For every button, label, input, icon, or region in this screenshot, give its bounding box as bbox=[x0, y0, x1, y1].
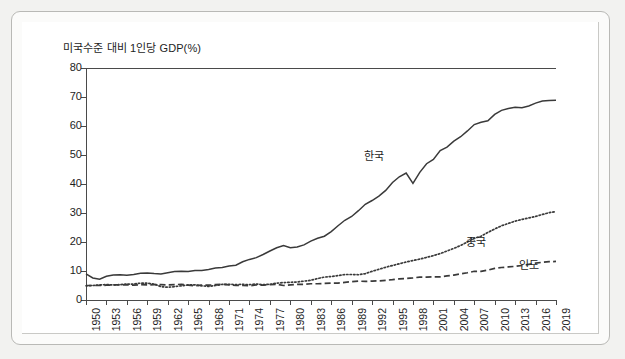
x-tick-label: 1965 bbox=[192, 308, 204, 331]
x-tick-label: 1977 bbox=[274, 308, 286, 331]
x-tick-label: 1995 bbox=[397, 308, 409, 331]
x-tick-mark bbox=[495, 300, 496, 305]
x-tick-label: 1959 bbox=[151, 308, 163, 331]
x-tick-mark bbox=[127, 300, 128, 305]
scanned-page: 미국수준 대비 1인당 GDP(%) 01020304050607080 195… bbox=[0, 0, 625, 359]
x-tick-mark bbox=[106, 300, 107, 305]
x-tick-mark bbox=[393, 300, 394, 305]
x-tick-mark bbox=[249, 300, 250, 305]
x-tick-label: 1971 bbox=[233, 308, 245, 331]
x-tick-label: 2010 bbox=[499, 308, 511, 331]
x-tick-label: 1962 bbox=[172, 308, 184, 331]
x-tick-label: 1992 bbox=[376, 308, 388, 331]
y-tick-label: 0 bbox=[76, 293, 82, 305]
chart-title: 미국수준 대비 1인당 GDP(%) bbox=[63, 39, 201, 55]
x-tick-label: 1998 bbox=[417, 308, 429, 331]
x-tick-label: 1950 bbox=[90, 308, 102, 331]
x-tick-mark bbox=[147, 300, 148, 305]
x-tick-mark bbox=[209, 300, 210, 305]
x-tick-label: 2007 bbox=[478, 308, 490, 331]
x-tick-label: 2016 bbox=[540, 308, 552, 331]
series-label-korea: 한국 bbox=[364, 147, 384, 163]
y-tick-label: 40 bbox=[70, 177, 82, 189]
x-tick-label: 1968 bbox=[213, 308, 225, 331]
x-tick-mark bbox=[168, 300, 169, 305]
series-label-india: 인도 bbox=[519, 256, 539, 272]
x-tick-mark bbox=[311, 300, 312, 305]
x-tick-mark bbox=[86, 300, 87, 305]
x-tick-mark bbox=[352, 300, 353, 305]
x-tick-label: 1983 bbox=[315, 308, 327, 331]
x-tick-mark bbox=[515, 300, 516, 305]
series-lines bbox=[86, 68, 556, 300]
y-tick-label: 10 bbox=[70, 264, 82, 276]
x-tick-mark bbox=[331, 300, 332, 305]
series-line-korea bbox=[86, 100, 556, 279]
x-tick-mark bbox=[454, 300, 455, 305]
x-tick-mark bbox=[474, 300, 475, 305]
x-tick-label: 1980 bbox=[294, 308, 306, 331]
y-tick-label: 80 bbox=[70, 61, 82, 73]
x-tick-label: 2019 bbox=[560, 308, 572, 331]
x-tick-label: 1989 bbox=[356, 308, 368, 331]
x-tick-label: 2013 bbox=[519, 308, 531, 331]
y-tick-label: 60 bbox=[70, 119, 82, 131]
x-tick-label: 1956 bbox=[131, 308, 143, 331]
x-tick-mark bbox=[188, 300, 189, 305]
x-tick-mark bbox=[433, 300, 434, 305]
plot-area: 01020304050607080 1950195319561959196219… bbox=[86, 68, 556, 300]
x-tick-mark bbox=[229, 300, 230, 305]
x-tick-mark bbox=[556, 300, 557, 305]
line-chart: 미국수준 대비 1인당 GDP(%) 01020304050607080 195… bbox=[0, 0, 625, 359]
y-tick-label: 70 bbox=[70, 90, 82, 102]
series-label-china: 중국 bbox=[466, 233, 486, 249]
x-tick-label: 2001 bbox=[437, 308, 449, 331]
y-tick-label: 50 bbox=[70, 148, 82, 160]
x-axis-line bbox=[86, 300, 556, 301]
x-tick-mark bbox=[536, 300, 537, 305]
series-line-china bbox=[86, 212, 556, 288]
x-tick-mark bbox=[372, 300, 373, 305]
x-tick-mark bbox=[290, 300, 291, 305]
y-tick-label: 30 bbox=[70, 206, 82, 218]
x-tick-label: 1986 bbox=[335, 308, 347, 331]
x-tick-mark bbox=[270, 300, 271, 305]
x-tick-mark bbox=[413, 300, 414, 305]
y-tick-label: 20 bbox=[70, 235, 82, 247]
x-tick-label: 2004 bbox=[458, 308, 470, 331]
x-tick-label: 1953 bbox=[110, 308, 122, 331]
x-tick-label: 1974 bbox=[253, 308, 265, 331]
